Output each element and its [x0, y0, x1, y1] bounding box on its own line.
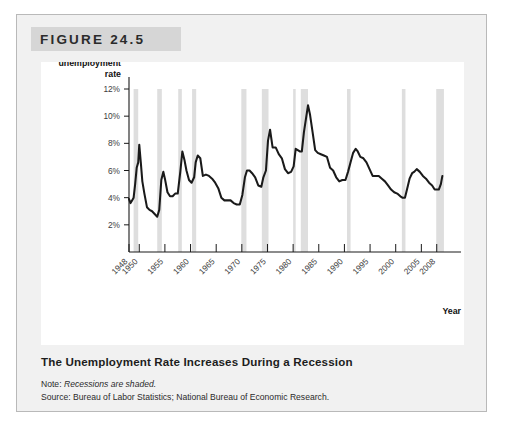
x-tick-label: 1960: [171, 256, 191, 276]
x-tick-label: 1985: [299, 256, 319, 276]
figure-header-banner: FIGURE 24.5: [31, 27, 181, 51]
unemployment-rate-line: [129, 105, 442, 216]
y-tick-label: 2%: [108, 220, 121, 230]
recession-band: [402, 89, 406, 252]
x-axis-title: Year: [442, 306, 461, 316]
chart-card: 2%4%6%8%10%12%19481950195519601965197019…: [41, 62, 464, 345]
source-text: Bureau of Labor Statistics; National Bur…: [73, 392, 329, 402]
caption-block: The Unemployment Rate Increases During a…: [41, 355, 471, 404]
x-tick-label: 1995: [350, 256, 370, 276]
recession-band: [293, 89, 296, 252]
recession-band: [241, 89, 246, 252]
recession-band: [157, 89, 162, 252]
y-tick-label: 12%: [103, 84, 120, 94]
figure-caption-title: The Unemployment Rate Increases During a…: [41, 355, 471, 368]
x-tick-label: 1990: [325, 256, 345, 276]
y-axis-title-line: rate: [105, 69, 121, 79]
x-tick-label: 1975: [248, 256, 268, 276]
y-tick-label: 6%: [108, 166, 121, 176]
x-tick-label: 1965: [196, 256, 216, 276]
y-tick-label: 4%: [108, 193, 121, 203]
x-tick-label: 1970: [222, 256, 242, 276]
recession-band: [436, 89, 444, 252]
figure-panel: FIGURE 24.5 2%4%6%8%10%12%19481950195519…: [16, 14, 487, 412]
x-tick-label: 2000: [376, 256, 396, 276]
figure-number-label: FIGURE 24.5: [31, 32, 145, 47]
x-tick-label: 1955: [145, 256, 165, 276]
y-tick-label: 10%: [103, 111, 120, 121]
unemployment-rate-chart: 2%4%6%8%10%12%19481950195519601965197019…: [41, 62, 464, 345]
note-text: Recessions are shaded.: [64, 379, 156, 389]
source-prefix: Source:: [41, 392, 71, 402]
figure-source: Source: Bureau of Labor Statistics; Nati…: [41, 392, 471, 404]
note-prefix: Note:: [41, 379, 62, 389]
figure-note: Note: Recessions are shaded.: [41, 379, 471, 391]
x-tick-label: 1980: [273, 256, 293, 276]
x-tick-label: 2008: [417, 256, 437, 276]
y-tick-label: 8%: [108, 138, 121, 148]
y-axis-title-line: unemployment: [58, 62, 121, 68]
